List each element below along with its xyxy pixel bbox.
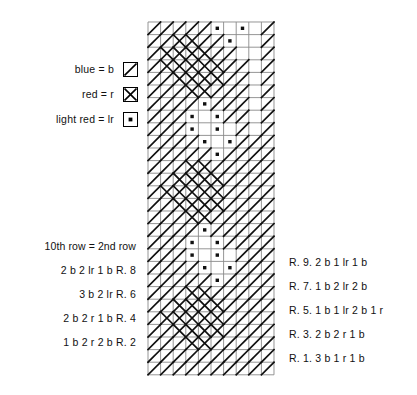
cell-diagonal-line xyxy=(173,362,186,375)
cell-diagonal-line xyxy=(211,85,224,98)
cell-diagonal-line xyxy=(236,287,249,300)
cell-diagonal-line xyxy=(224,337,237,350)
cell-diagonal-line xyxy=(261,350,274,363)
cell-diagonal-line xyxy=(186,350,199,363)
cell-diagonal-line xyxy=(249,362,262,375)
cell-diagonal-line xyxy=(261,236,274,249)
cell-diagonal-line xyxy=(148,110,161,123)
cell-diagonal-line xyxy=(236,60,249,73)
cell-diagonal-line xyxy=(236,337,249,350)
cell-diagonal-line xyxy=(173,236,186,249)
cell-diagonal-line xyxy=(261,186,274,199)
cell-diagonal-line xyxy=(236,236,249,249)
cell-diagonal-line xyxy=(224,236,237,249)
cell-diagonal-line xyxy=(224,287,237,300)
cell-diagonal-line xyxy=(161,261,174,274)
cell-dot xyxy=(216,253,219,256)
cell-diagonal-line xyxy=(236,261,249,274)
cell-diagonal-line xyxy=(236,324,249,337)
cell-diagonal-line xyxy=(198,350,211,363)
cell-diagonal-line xyxy=(161,350,174,363)
pattern-chart xyxy=(147,21,275,376)
cell-diagonal-line xyxy=(148,211,161,224)
cell-diagonal-line xyxy=(173,249,186,262)
cell-diagonal-line xyxy=(161,337,174,350)
cell-diagonal-line xyxy=(236,299,249,312)
cell-diagonal-line xyxy=(249,324,262,337)
cell-diagonal-line xyxy=(161,224,174,237)
cell-diagonal-line xyxy=(161,22,174,35)
right-row-instructions: R. 9. 2 b 1 lr 1 b R. 7. 1 b 2 lr 2 b R.… xyxy=(289,250,417,370)
cell-diagonal-line xyxy=(261,47,274,60)
cell-diagonal-line xyxy=(236,123,249,136)
cell-diagonal-line xyxy=(224,299,237,312)
cell-diagonal-line xyxy=(249,148,262,161)
cell-diagonal-line xyxy=(148,287,161,300)
cell-diagonal-line xyxy=(236,224,249,237)
cell-diagonal-line xyxy=(236,249,249,262)
cell-diagonal-line xyxy=(224,85,237,98)
cell-dot xyxy=(216,279,219,282)
cell-diagonal-line xyxy=(148,123,161,136)
cell-diagonal-line xyxy=(236,362,249,375)
cell-diagonal-line xyxy=(261,261,274,274)
cell-diagonal-line xyxy=(148,312,161,325)
cell-diagonal-line xyxy=(261,274,274,287)
cell-diagonal-line xyxy=(161,173,174,186)
cell-diagonal-line xyxy=(161,148,174,161)
cell-diagonal-line xyxy=(261,211,274,224)
cell-diagonal-line xyxy=(261,85,274,98)
cell-diagonal-line xyxy=(261,312,274,325)
cell-diagonal-line xyxy=(224,350,237,363)
cell-dot xyxy=(190,127,193,130)
cell-diagonal-line xyxy=(173,161,186,174)
cell-dot xyxy=(216,127,219,130)
cell-diagonal-line xyxy=(224,211,237,224)
cell-diagonal-line xyxy=(161,211,174,224)
cell-dot xyxy=(190,253,193,256)
row-instruction-line: R. 7. 1 b 2 lr 2 b xyxy=(289,274,417,298)
cell-diagonal-line xyxy=(173,85,186,98)
cell-diagonal-line xyxy=(236,135,249,148)
cell-diagonal-line xyxy=(186,224,199,237)
cell-diagonal-line xyxy=(249,173,262,186)
legend-item-red: red = r xyxy=(10,83,138,105)
row-instruction-line: R. 3. 2 b 2 r 1 b xyxy=(289,322,417,346)
cell-diagonal-line xyxy=(249,224,262,237)
cell-diagonal-line xyxy=(173,110,186,123)
cell-diagonal-line xyxy=(211,211,224,224)
cell-diagonal-line xyxy=(261,98,274,111)
dot-symbol-icon xyxy=(123,112,138,127)
cell-diagonal-line xyxy=(249,299,262,312)
cell-diagonal-line xyxy=(249,274,262,287)
row-instruction-line: 10th row = 2nd row xyxy=(0,234,138,258)
cell-diagonal-line xyxy=(236,198,249,211)
cell-diagonal-line xyxy=(148,60,161,73)
cell-diagonal-line xyxy=(161,110,174,123)
cell-dot xyxy=(228,39,231,42)
cell-diagonal-line xyxy=(261,198,274,211)
cell-diagonal-line xyxy=(236,173,249,186)
cell-diagonal-line xyxy=(236,72,249,85)
cell-diagonal-line xyxy=(148,98,161,111)
row-instruction-line: R. 1. 3 b 1 r 1 b xyxy=(289,346,417,370)
cell-diagonal-line xyxy=(186,148,199,161)
cell-diagonal-line xyxy=(173,211,186,224)
cell-diagonal-line xyxy=(249,350,262,363)
cell-diagonal-line xyxy=(198,35,211,48)
cross-symbol-icon xyxy=(123,87,138,102)
cell-diagonal-line xyxy=(198,274,211,287)
cell-diagonal-line xyxy=(224,274,237,287)
cell-diagonal-line xyxy=(249,236,262,249)
cell-dot xyxy=(241,27,244,30)
cell-diagonal-line xyxy=(161,324,174,337)
cell-dot xyxy=(216,115,219,118)
cell-dot xyxy=(203,266,206,269)
cell-diagonal-line xyxy=(236,161,249,174)
cell-dot xyxy=(216,153,219,156)
cell-diagonal-line xyxy=(161,362,174,375)
cell-diagonal-line xyxy=(261,110,274,123)
legend-item-label: red = r xyxy=(82,88,123,100)
row-instruction-line: 2 b 2 lr 1 b R. 8 xyxy=(0,258,138,282)
cell-diagonal-line xyxy=(224,98,237,111)
